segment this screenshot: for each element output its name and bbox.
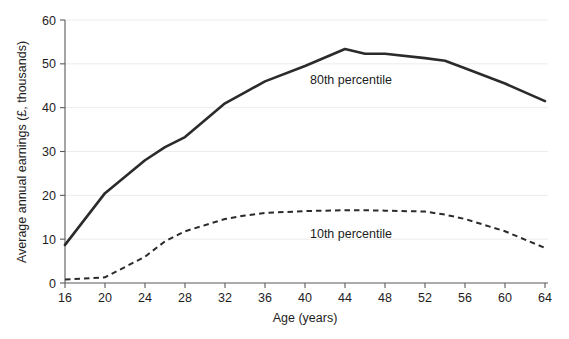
x-tick-label-40: 40 [298,291,312,305]
y-tick-label-20: 20 [42,189,56,203]
series-line-10th-percentile [65,210,545,279]
series-line-80th-percentile [65,49,545,245]
y-tick-label-30: 30 [42,145,56,159]
y-tick-label-10: 10 [42,233,56,247]
chart-canvas: 0102030405060 16202428323640444852566064… [0,0,569,339]
x-axis-title: Age (years) [273,311,338,325]
y-tick-label-0: 0 [49,277,56,291]
x-tick-label-28: 28 [178,291,192,305]
x-tick-label-60: 60 [498,291,512,305]
series-annotation-80th-percentile: 80th percentile [310,73,392,87]
x-tick-label-52: 52 [418,291,432,305]
gridlines-group [65,20,548,239]
series-annotations-group: 80th percentile10th percentile [310,73,392,241]
y-axis-ticks-group: 0102030405060 [42,14,65,291]
data-series-group [65,49,545,280]
chart-figure: 0102030405060 16202428323640444852566064… [0,0,569,339]
x-tick-label-32: 32 [218,291,232,305]
x-tick-label-24: 24 [138,291,152,305]
x-axis-ticks-group: 16202428323640444852566064 [58,283,552,305]
y-tick-label-60: 60 [42,14,56,28]
x-tick-label-16: 16 [58,291,72,305]
x-tick-label-56: 56 [458,291,472,305]
y-tick-label-50: 50 [42,57,56,71]
x-tick-label-48: 48 [378,291,392,305]
x-tick-label-36: 36 [258,291,272,305]
x-tick-label-20: 20 [98,291,112,305]
x-tick-label-64: 64 [538,291,552,305]
y-axis-title: Average annual earnings (£, thousands) [15,41,29,263]
x-tick-label-44: 44 [338,291,352,305]
y-tick-label-40: 40 [42,101,56,115]
series-annotation-10th-percentile: 10th percentile [310,227,392,241]
